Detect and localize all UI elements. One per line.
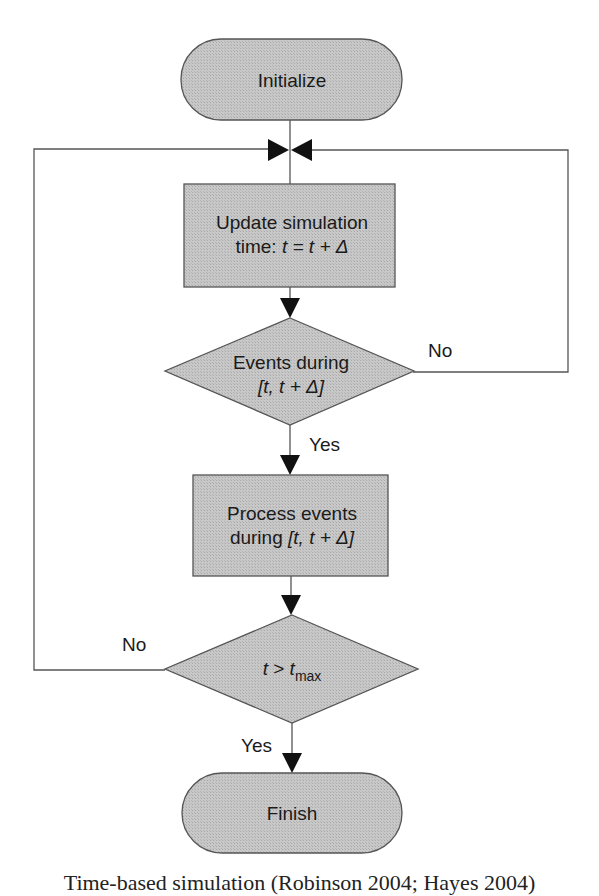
arrow-left-junction-icon xyxy=(268,139,289,161)
edge-label-events-yes: Yes xyxy=(309,434,340,455)
figure-caption: Time-based simulation (Robinson 2004; Ha… xyxy=(0,870,599,896)
node-process-events: Process events during [t, t + Δ] xyxy=(193,475,388,576)
edge-label-time-yes: Yes xyxy=(241,735,272,756)
update-time-line1: Update simulation xyxy=(216,212,368,233)
node-time-check: t > tmax xyxy=(165,615,418,723)
arrow-right-junction-icon xyxy=(291,139,312,161)
finish-label: Finish xyxy=(267,803,318,824)
time-check-op: > xyxy=(268,658,290,679)
process-events-line2: during [t, t + Δ] xyxy=(230,527,355,548)
arrow-into-process-icon xyxy=(280,455,300,475)
edge-label-events-no: No xyxy=(428,340,452,361)
edge-label-time-no: No xyxy=(122,634,146,655)
events-check-line2: [t, t + Δ] xyxy=(257,376,325,397)
node-events-check: Events during [t, t + Δ] xyxy=(165,318,414,425)
arrow-into-events-icon xyxy=(280,298,300,318)
events-check-line1: Events during xyxy=(233,352,349,373)
update-time-prefix: time: xyxy=(235,236,281,257)
process-events-line1: Process events xyxy=(227,503,357,524)
update-time-line2: time: t = t + Δ xyxy=(235,236,348,257)
process-events-prefix: during xyxy=(230,527,288,548)
node-finish: Finish xyxy=(182,773,402,853)
arrow-into-timecheck-icon xyxy=(281,595,301,615)
time-check-subscript: max xyxy=(295,668,321,684)
node-update-time: Update simulation time: t = t + Δ xyxy=(184,184,395,287)
initialize-label: Initialize xyxy=(258,70,327,91)
arrow-into-finish-icon xyxy=(282,753,302,773)
update-time-formula: t = t + Δ xyxy=(282,236,349,257)
node-initialize: Initialize xyxy=(181,39,402,120)
process-events-formula: [t, t + Δ] xyxy=(287,527,355,548)
